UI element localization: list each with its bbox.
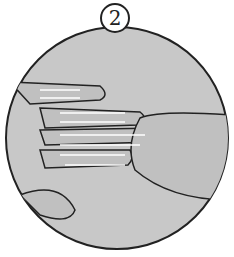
finger-2 [40, 108, 145, 128]
step-number-badge: 2 [100, 3, 130, 33]
illustration [0, 0, 234, 257]
